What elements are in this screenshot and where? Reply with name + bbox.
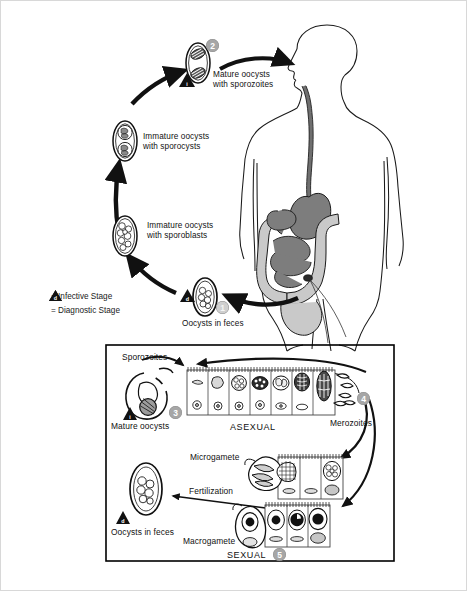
- legend: i = Infective Stage d = Diagnostic Stage: [48, 289, 120, 317]
- svg-text:d: d: [54, 295, 57, 301]
- badge-stage-1: 1: [216, 301, 229, 314]
- oocyst-immature-sporoblasts: [113, 216, 137, 256]
- microgamete-epithelium: [245, 454, 343, 499]
- life-cycle-diagram: i: [0, 0, 467, 591]
- legend-label-diagnostic: = Diagnostic Stage: [51, 306, 120, 315]
- badge-stage-2: 2: [206, 39, 219, 52]
- svg-text:d: d: [121, 518, 124, 524]
- label-mature-oocysts-inset: Mature oocysts: [111, 422, 169, 432]
- label-microgamete: Microgamete: [190, 453, 240, 463]
- label-fertilization: Fertilization: [189, 487, 233, 497]
- label-sexual-section: SEXUAL: [227, 551, 266, 561]
- macrogamete-epithelium: [233, 502, 330, 548]
- asexual-epithelium: [187, 367, 335, 415]
- label-immature-oocysts-with-sporoblasts: Immature oocysts with sporoblasts: [147, 221, 213, 240]
- badge-stage-4: 4: [357, 392, 370, 405]
- label-immature-oocysts-with-sporocysts: Immature oocysts with sporocysts: [143, 132, 209, 151]
- badge-stage-5: 5: [273, 548, 286, 561]
- inset-oocyst-in-feces: [130, 463, 162, 515]
- warning-triangle-icon-diagnostic: d: [48, 289, 63, 302]
- infective-marker-stage3: i: [123, 407, 137, 420]
- merozoites-cluster: [334, 374, 355, 406]
- oocyst-in-feces-outer: [193, 278, 217, 316]
- label-sporozoites: Sporozoites: [122, 353, 167, 363]
- label-asexual-section: ASEXUAL: [230, 423, 276, 433]
- label-oocysts-in-feces-inset: Oocysts in feces: [111, 528, 174, 538]
- inset-mature-oocyst: [126, 368, 173, 419]
- label-oocysts-in-feces-outer: Oocysts in feces: [182, 319, 244, 329]
- diagnostic-marker-inset: d: [116, 511, 130, 524]
- badge-stage-3: 3: [169, 406, 182, 419]
- label-mature-oocysts-with-sporozoites: Mature oocysts with sporozoites: [213, 70, 273, 89]
- cycle-arrows: [116, 58, 298, 304]
- svg-text:d: d: [186, 296, 189, 302]
- oocyst-immature-sporocysts: [113, 121, 137, 161]
- esophagus: [302, 86, 313, 197]
- label-merozoites: Merozoites: [330, 419, 372, 429]
- legend-row-diagnostic: d = Diagnostic Stage: [48, 303, 120, 317]
- label-macrogamete: Macrogamete: [183, 537, 235, 547]
